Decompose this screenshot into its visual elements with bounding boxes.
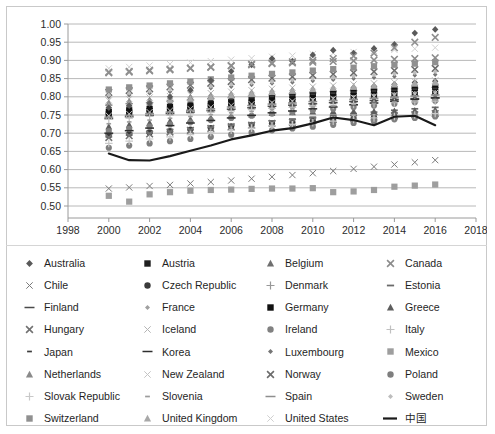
legend-item-label: Korea [162,347,190,358]
marker-x-thin [26,282,32,288]
marker-square [289,185,295,191]
marker-diamond [26,259,33,266]
marker-diamond-sm [145,305,150,310]
marker-x-thin [351,166,357,172]
legend-item[interactable]: Australia [22,252,140,274]
marker-x [208,64,215,71]
legend-item-label: Ireland [285,324,317,335]
legend-item[interactable]: New Zealand [140,363,263,385]
marker-x-thin [228,57,234,63]
legend-item[interactable]: Germany [263,296,383,318]
legend-item[interactable]: Netherlands [22,363,140,385]
legend-marker-line-icon [383,412,398,425]
legend-item-label: Norway [285,369,321,380]
legend-item[interactable]: Korea [140,341,263,363]
marker-plus [267,281,275,289]
legend-item[interactable]: Estonia [383,274,495,296]
legend-item-label: Luxembourg [285,347,344,358]
legend-item[interactable]: France [140,296,263,318]
marker-x-thin [208,58,214,64]
legend-item[interactable]: Greece [383,296,495,318]
legend-item-label: Australia [44,258,85,269]
marker-x-thin [167,182,173,188]
marker-x-thin [412,46,418,52]
marker-x-thin [187,180,193,186]
legend-item-label: Spain [285,391,312,402]
marker-x-thin [289,172,295,178]
legend-item[interactable]: United Kingdom [140,407,263,429]
marker-square [330,189,336,195]
chart-legend: AustraliaAustriaBelgiumCanadaChileCzech … [6,245,487,426]
marker-square [126,199,132,205]
marker-x [391,56,398,63]
legend-marker-plus-icon [263,279,278,292]
scatter-plot: 0.500.550.600.650.700.750.800.850.900.95… [6,6,487,244]
legend-item[interactable]: Iceland [140,319,263,341]
marker-square [387,349,393,355]
legend-item-label: Czech Republic [162,280,236,291]
legend-marker-x-thin-icon [263,412,278,425]
y-axis-tick-label: 0.75 [41,109,62,121]
legend-item[interactable]: Switzerland [22,407,140,429]
legend-item[interactable]: Poland [383,363,495,385]
legend-item[interactable]: Norway [263,363,383,385]
marker-square [432,181,438,187]
legend-item-label: Chile [44,280,68,291]
legend-item-label: Iceland [162,324,196,335]
legend-item[interactable]: Czech Republic [140,274,263,296]
legend-item-label: Estonia [405,280,440,291]
legend-item[interactable]: Slovak Republic [22,385,140,407]
legend-item[interactable]: Hungary [22,319,140,341]
legend-item[interactable]: Spain [263,385,383,407]
marker-square [371,63,377,69]
marker-square [208,187,214,193]
legend-item[interactable]: Italy [383,319,495,341]
y-axis-tick-label: 0.80 [41,90,62,102]
legend-marker-x-icon [383,257,398,270]
marker-square [310,185,316,191]
legend-item[interactable]: Japan [22,341,140,363]
legend-item[interactable]: Mexico [383,341,495,363]
marker-square [126,84,132,90]
marker-x-thin [228,177,234,183]
legend-item[interactable]: Ireland [263,319,383,341]
x-axis-tick-label: 2000 [97,224,121,236]
x-axis-tick-label: 2016 [424,224,448,236]
legend-marker-square-icon [22,412,37,425]
marker-x-thin [330,168,336,174]
legend-item[interactable]: Denmark [263,274,383,296]
legend-marker-x-thin-icon [140,368,155,381]
legend-item[interactable]: Austria [140,252,263,274]
x-axis-tick-label: 2004 [179,224,203,236]
y-axis-tick-label: 0.55 [41,181,62,193]
legend-item[interactable]: Sweden [383,385,495,407]
marker-x-thin [269,174,275,180]
marker-plus [387,326,395,334]
marker-square [147,191,153,197]
legend-item[interactable]: Canada [383,252,495,274]
legend-item[interactable]: United States [263,407,383,429]
legend-item[interactable]: Luxembourg [263,341,383,363]
chart-screenshot: 0.500.550.600.650.700.750.800.850.900.95… [0,0,495,434]
legend-marker-dash-long-icon [263,390,278,403]
legend-item[interactable]: 中国 [383,407,495,429]
marker-square [228,187,234,193]
legend-item[interactable]: Finland [22,296,140,318]
legend-marker-dash-icon [383,279,398,292]
marker-x [146,67,153,74]
marker-square [228,74,234,80]
legend-item[interactable]: Slovenia [140,385,263,407]
marker-square [412,183,418,189]
legend-marker-dash-sm-icon [22,345,37,358]
marker-triangle [248,90,255,96]
x-axis-tick-label: 2008 [260,224,284,236]
legend-item-label: Germany [285,302,329,313]
legend-item[interactable]: Belgium [263,252,383,274]
marker-triangle [267,259,274,266]
legend-marker-diamond-sm-icon [263,345,278,358]
marker-x-thin [432,45,438,51]
marker-square [187,102,193,108]
marker-square [144,260,150,266]
legend-item[interactable]: Chile [22,274,140,296]
marker-x-thin [310,170,316,176]
